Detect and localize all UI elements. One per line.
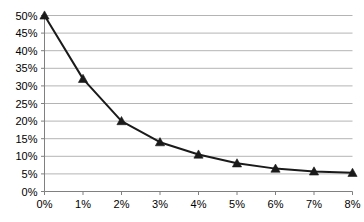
y-axis-tick-label: 0% [22, 186, 38, 198]
x-axis-tick-label: 7% [306, 198, 322, 210]
x-axis-tick-label: 0% [37, 198, 53, 210]
x-axis-tick-label: 4% [191, 198, 207, 210]
y-axis-tick-label: 40% [15, 45, 37, 57]
y-axis-tick-label: 30% [15, 80, 37, 92]
x-axis-tick-label: 6% [268, 198, 284, 210]
y-axis-tick-label: 15% [15, 133, 37, 145]
x-axis-tick-label: 5% [229, 198, 245, 210]
y-axis-tick-label: 35% [15, 62, 37, 74]
y-axis-tick-label: 45% [15, 27, 37, 39]
y-axis-tick-label: 50% [15, 10, 37, 22]
x-axis-tick-label: 1% [75, 198, 91, 210]
chart-container: 0%5%10%15%20%25%30%35%40%45%50% 0%1%2%3%… [0, 0, 364, 222]
line-chart: 0%5%10%15%20%25%30%35%40%45%50% 0%1%2%3%… [0, 0, 364, 222]
x-axis-tick-label: 3% [152, 198, 168, 210]
y-axis-tick-label: 25% [15, 98, 37, 110]
x-axis-tick-label: 2% [114, 198, 130, 210]
y-axis-tick-label: 20% [15, 115, 37, 127]
y-axis-tick-label: 10% [15, 150, 37, 162]
x-axis-tick-label: 8% [345, 198, 361, 210]
y-axis-tick-label: 5% [22, 168, 38, 180]
x-axis-tick-labels: 0%1%2%3%4%5%6%7%8% [37, 198, 361, 210]
